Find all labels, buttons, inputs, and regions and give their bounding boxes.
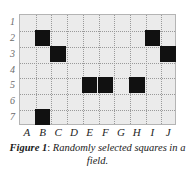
column-label-C: C xyxy=(50,126,66,138)
column-label-D: D xyxy=(66,126,82,138)
row-label-5: 5 xyxy=(1,80,15,90)
column-label-G: G xyxy=(113,126,129,138)
caption-label: Figure 1 xyxy=(10,142,48,153)
field-grid xyxy=(19,14,176,125)
figure-container: 1234567 ABCDEFGHIJ Figure 1: Randomly se… xyxy=(0,0,195,171)
grid-hline xyxy=(20,94,175,95)
row-label-6: 6 xyxy=(1,96,15,106)
filled-square-J3 xyxy=(160,46,176,62)
filled-square-E5 xyxy=(82,77,98,93)
filled-square-I2 xyxy=(145,30,161,46)
column-label-J: J xyxy=(160,126,176,138)
filled-square-B7 xyxy=(35,109,51,125)
filled-square-F5 xyxy=(98,77,114,93)
column-label-I: I xyxy=(145,126,161,138)
caption-colon: : xyxy=(47,142,50,153)
row-label-axis: 1234567 xyxy=(0,14,17,125)
row-label-4: 4 xyxy=(1,65,15,75)
row-label-3: 3 xyxy=(1,49,15,59)
filled-square-C3 xyxy=(50,46,66,62)
row-label-7: 7 xyxy=(1,112,15,122)
grid-hline xyxy=(20,63,175,64)
row-label-2: 2 xyxy=(1,33,15,43)
column-label-F: F xyxy=(98,126,114,138)
row-label-1: 1 xyxy=(1,17,15,27)
grid-hline xyxy=(20,47,175,48)
filled-square-H5 xyxy=(129,77,145,93)
column-label-axis: ABCDEFGHIJ xyxy=(19,126,176,140)
figure-caption: Figure 1: Randomly selected squares in a… xyxy=(8,141,187,167)
caption-text: Randomly selected squares in a field. xyxy=(53,142,186,166)
filled-square-B2 xyxy=(35,30,51,46)
column-label-B: B xyxy=(35,126,51,138)
column-label-A: A xyxy=(19,126,35,138)
column-label-E: E xyxy=(82,126,98,138)
column-label-H: H xyxy=(129,126,145,138)
